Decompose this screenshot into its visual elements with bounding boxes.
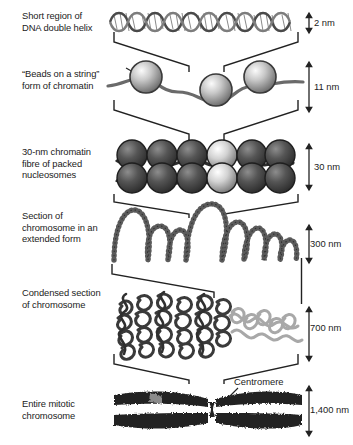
scale-label-700nm: 700 nm: [310, 322, 341, 333]
scale-label-300nm: 300 nm: [310, 238, 341, 249]
scale-bar-700nm: [303, 306, 315, 362]
art-looped-fibre: [110, 200, 302, 262]
label-thirty-nm-fibre: 30-nm chromatin fibre of packed nucleoso…: [22, 146, 91, 181]
leader-centromere: [220, 387, 240, 405]
dna-packing-figure: Short region of DNA double helix: [0, 0, 353, 445]
art-packed-nucleosome-fibre: [112, 136, 298, 194]
scale-label-2nm: 2 nm: [314, 17, 335, 28]
scale-label-1400nm: 1,400 nm: [310, 404, 349, 415]
label-centromere: Centromere: [234, 376, 284, 387]
label-condensed-chromosome: Condensed section of chromosome: [22, 287, 101, 310]
art-metaphase-chromosome: [112, 385, 304, 437]
label-extended-chromosome: Section of chromosome in an extended for…: [22, 210, 98, 245]
label-dna-double-helix: Short region of DNA double helix: [22, 10, 92, 33]
scale-label-30nm: 30 nm: [314, 161, 340, 172]
connector-beads-to-fibre: [112, 96, 302, 140]
scale-label-11nm: 11 nm: [314, 81, 339, 92]
art-condensed-coils: [112, 288, 304, 360]
label-beads-on-a-string: “Beads on a string” form of chromatin: [22, 68, 99, 91]
label-mitotic-chromosome: Entire mitotic chromosome: [22, 398, 75, 421]
